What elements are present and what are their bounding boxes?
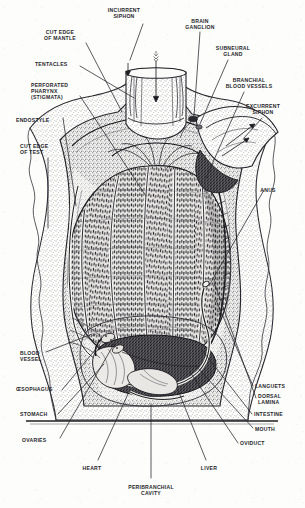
leader-incurrent-siphon	[130, 24, 143, 60]
label-stomach: STOMACH	[20, 412, 47, 418]
label-excurrent-siphon: EXCURRENT SIPHON	[246, 104, 280, 116]
label-languets: LANGUETS	[255, 384, 285, 390]
label-blood-vessel: BLOOD VESSEL	[20, 351, 42, 363]
label-brain-ganglion: BRAIN GANGLION	[185, 19, 215, 31]
label-mouth: MOUTH	[255, 427, 275, 433]
label-perforated-pharynx: PERFORATED PHARYNX (STIGMATA)	[31, 83, 68, 101]
brain-ganglion-body	[189, 116, 198, 122]
label-peribranchial-cavity: PERIBRANCHIAL CAVITY	[128, 485, 174, 497]
label-branchial-blood-vessels: BRANCHIAL BLOOD VESSELS	[226, 78, 273, 90]
label-intestine: INTESTINE	[254, 412, 283, 418]
anatomy-plate: INCURRENT SIPHON BRAIN GANGLION CUT EDGE…	[0, 0, 305, 508]
label-ovaries: OVARIES	[22, 438, 46, 444]
label-oviduct: OVIDUCT	[240, 441, 265, 447]
label-incurrent-siphon: INCURRENT SIPHON	[108, 8, 140, 20]
label-cut-edge-of-mantle: CUT EDGE OF MANTLE	[44, 30, 76, 42]
label-liver: LIVER	[201, 466, 217, 472]
subneural-gland-body	[196, 125, 202, 129]
label-oesophagus: ŒSOPHAGUS	[16, 387, 53, 393]
label-cut-edge-of-test: CUT EDGE OF TEST	[20, 144, 48, 156]
label-endostyle: ENDOSTYLE	[16, 118, 49, 124]
label-heart: HEART	[83, 466, 102, 472]
label-anus: ANUS	[260, 188, 275, 194]
label-tentacles: TENTACLES	[35, 62, 68, 68]
label-dorsal-lamina: DORSAL LAMINA	[258, 394, 281, 406]
label-subneural-gland: SUBNEURAL GLAND	[216, 46, 250, 58]
